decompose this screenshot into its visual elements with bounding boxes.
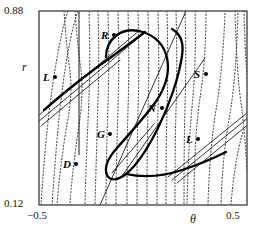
annotation-dot-N [160,106,164,110]
x-axis-min-tick: −0.5 [27,210,47,221]
annotation-label-G: G [97,129,105,140]
annotation-dot-L-left [53,75,57,79]
annotation-label-N: N [148,103,156,114]
annotation-label-D: D [63,159,71,170]
annotation-dot-D [74,162,78,166]
y-axis-label: r [22,61,27,73]
annotation-label-S: S [194,69,200,80]
annotation-dot-R [112,33,116,37]
annotation-label-L-right: L [186,134,193,145]
annotation-label-L-left: L [43,72,50,83]
annotation-dot-L-right [196,137,200,141]
annotation-label-R: R [101,30,108,41]
x-axis-label: θ [190,213,196,225]
annotation-dot-G [108,132,112,136]
y-axis-min-tick: 0.12 [4,198,23,209]
figure-panel: 0.88 0.12 r −0.5 0.5 θ R L S N G L D [0,0,261,245]
x-axis-max-tick: 0.5 [226,210,240,221]
y-axis-max-tick: 0.88 [4,5,23,16]
annotation-dot-S [204,72,208,76]
